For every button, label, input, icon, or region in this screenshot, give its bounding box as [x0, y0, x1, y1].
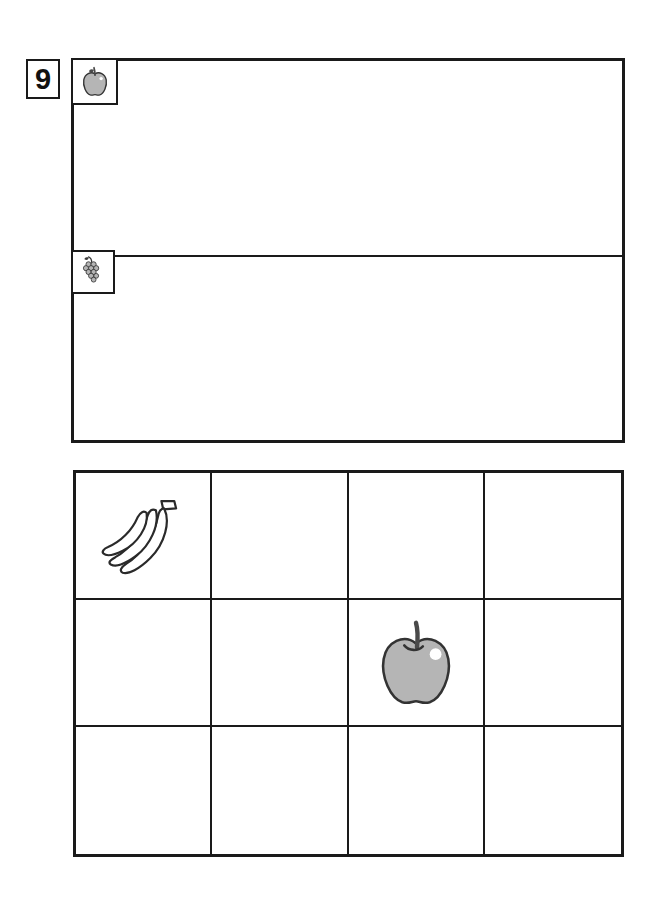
- sort-table[interactable]: [71, 58, 625, 443]
- exercise-number-label: 9: [35, 65, 51, 94]
- category-label-grapes: [71, 250, 115, 294]
- grid-cell-r2c3[interactable]: [485, 727, 621, 854]
- banana-icon: [97, 490, 189, 582]
- grid-cell-r1c3[interactable]: [485, 600, 621, 727]
- sort-table-row-grapes[interactable]: [74, 257, 622, 443]
- category-label-apple: [71, 58, 118, 105]
- grid-cell-r1c2[interactable]: [349, 600, 485, 727]
- apple-icon: [367, 614, 465, 712]
- picture-grid[interactable]: [73, 470, 624, 857]
- sort-table-row-apple[interactable]: [74, 61, 622, 255]
- grid-cell-r1c0[interactable]: [76, 600, 212, 727]
- exercise-number-box: 9: [26, 59, 60, 99]
- apple-icon: [78, 65, 112, 99]
- grid-cell-r0c1[interactable]: [212, 473, 348, 600]
- grid-cell-r0c3[interactable]: [485, 473, 621, 600]
- grid-cell-r0c2[interactable]: [349, 473, 485, 600]
- grid-cell-r1c1[interactable]: [212, 600, 348, 727]
- grapes-icon: [78, 256, 108, 288]
- grid-cell-r2c1[interactable]: [212, 727, 348, 854]
- worksheet-page: 9: [0, 0, 651, 904]
- grid-cell-r2c0[interactable]: [76, 727, 212, 854]
- grid-cell-r0c0[interactable]: [76, 473, 212, 600]
- grid-cell-r2c2[interactable]: [349, 727, 485, 854]
